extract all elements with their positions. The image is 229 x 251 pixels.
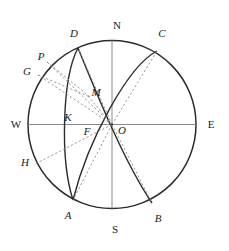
label-B: B — [155, 213, 162, 224]
label-S: S — [112, 224, 118, 235]
point-O-marker — [111, 124, 113, 126]
ray-O-A — [73, 125, 112, 201]
label-N: N — [113, 20, 121, 31]
label-O: O — [118, 125, 126, 136]
label-W: W — [11, 119, 21, 130]
label-H: H — [21, 157, 29, 168]
label-A: A — [65, 210, 72, 221]
ray-P-M — [47, 62, 90, 97]
label-K: K — [64, 112, 71, 123]
label-M: M — [91, 87, 100, 98]
label-F: F — [84, 126, 91, 137]
ray-O-P — [47, 62, 112, 125]
ray-O-B — [112, 125, 152, 204]
geometry-figure — [0, 0, 229, 251]
label-D: D — [70, 28, 78, 39]
diagram-canvas: N S W E D C A B P G H M K F O — [0, 0, 229, 251]
ray-O-H — [35, 125, 112, 165]
label-C: C — [158, 28, 165, 39]
ray-O-C — [112, 51, 157, 125]
label-E: E — [208, 119, 215, 130]
label-P: P — [38, 51, 45, 62]
label-G: G — [23, 66, 31, 77]
